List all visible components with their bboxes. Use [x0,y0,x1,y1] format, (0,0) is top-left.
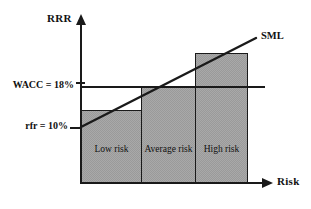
bar-average-risk [141,86,196,183]
y-axis-title: RRR [47,12,72,24]
wacc-label: WACC = 18% [0,79,74,90]
sml-label: SML [261,30,284,41]
bar-label-high-risk: High risk [195,144,248,154]
x-axis-title: Risk [277,175,300,187]
bar-label-average-risk: Average risk [141,144,196,154]
rfr-label: rfr = 10% [0,120,68,131]
wacc-axis-tick [76,82,85,84]
rfr-axis-tick [70,127,82,129]
bar-high-risk [195,53,248,183]
y-axis-arrow-icon [76,14,86,25]
x-axis-arrow-icon [262,178,273,188]
bar-label-low-risk: Low risk [81,144,142,154]
sml-risk-diagram: RRR Risk Low risk Average risk High risk… [0,0,311,209]
wacc-reference-line [80,86,265,88]
